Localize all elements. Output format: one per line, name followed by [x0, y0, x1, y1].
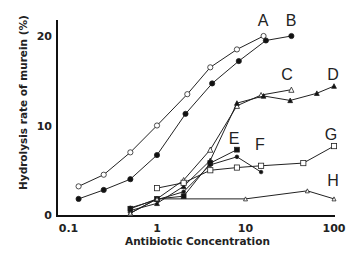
y-axis-label: Hydrolysis rate of murein (%) — [17, 15, 29, 190]
data-point-marker — [154, 123, 159, 128]
data-point-marker — [183, 111, 188, 116]
y-tick-label: 20 — [37, 30, 53, 43]
series-label-F: F — [255, 136, 265, 153]
data-point-marker — [182, 190, 186, 194]
series-B — [76, 33, 294, 201]
data-point-marker — [208, 65, 213, 70]
x-tick-label: 10 — [238, 222, 254, 235]
data-point-marker — [258, 163, 263, 168]
series-label-H: H — [327, 172, 339, 189]
data-point-marker — [332, 84, 337, 89]
series-line — [130, 157, 261, 208]
series-label-A: A — [258, 12, 269, 29]
data-point-marker — [154, 152, 159, 157]
data-point-marker — [154, 186, 159, 191]
y-tick-label: 10 — [37, 120, 53, 133]
series-label-E: E — [229, 130, 240, 147]
x-axis-label: Antibiotic Concentration — [125, 235, 270, 247]
data-point-marker — [76, 196, 81, 201]
series-label-G: G — [325, 126, 337, 143]
data-point-marker — [181, 194, 186, 199]
series-G — [154, 143, 336, 190]
series-label-C: C — [281, 66, 293, 83]
data-point-marker — [208, 168, 213, 173]
series-line — [79, 36, 292, 199]
series-label-D: D — [327, 66, 339, 83]
data-point-marker — [331, 143, 336, 148]
data-point-marker — [101, 172, 106, 177]
data-point-marker — [234, 165, 239, 170]
data-point-marker — [301, 160, 306, 165]
series-group — [76, 33, 337, 215]
data-point-marker — [244, 197, 248, 201]
data-point-marker — [259, 170, 263, 174]
data-point-marker — [236, 58, 241, 63]
x-tick-labels: 0.1110100 — [59, 222, 346, 235]
y-tick-label: 0 — [44, 209, 52, 222]
data-point-marker — [235, 147, 240, 152]
data-point-marker — [234, 47, 239, 52]
data-point-marker — [76, 184, 81, 189]
series-C — [128, 87, 294, 216]
data-point-marker — [208, 147, 213, 152]
series-label-B: B — [286, 12, 297, 29]
data-point-marker — [185, 92, 190, 97]
data-point-marker — [314, 91, 319, 96]
murein-hydrolysis-chart: 0.1110100 01020 Antibiotic Concentration… — [0, 0, 363, 259]
y-tick-labels: 01020 — [37, 30, 53, 222]
data-point-marker — [101, 187, 106, 192]
data-point-marker — [235, 155, 239, 159]
data-point-marker — [128, 177, 133, 182]
series-D — [128, 84, 336, 213]
series-line — [79, 36, 264, 186]
data-point-marker — [208, 163, 212, 167]
data-point-marker — [332, 197, 336, 201]
x-tick-label: 100 — [323, 222, 346, 235]
data-point-marker — [181, 180, 186, 185]
data-point-marker — [305, 189, 309, 193]
data-point-marker — [210, 81, 215, 86]
data-point-marker — [128, 150, 133, 155]
x-tick-label: 1 — [153, 222, 161, 235]
data-point-marker — [263, 38, 268, 43]
data-point-marker — [289, 33, 294, 38]
series-line — [130, 191, 334, 213]
data-point-marker — [129, 206, 133, 210]
axes — [56, 20, 335, 216]
series-line — [130, 86, 334, 210]
x-tick-label: 0.1 — [59, 222, 79, 235]
